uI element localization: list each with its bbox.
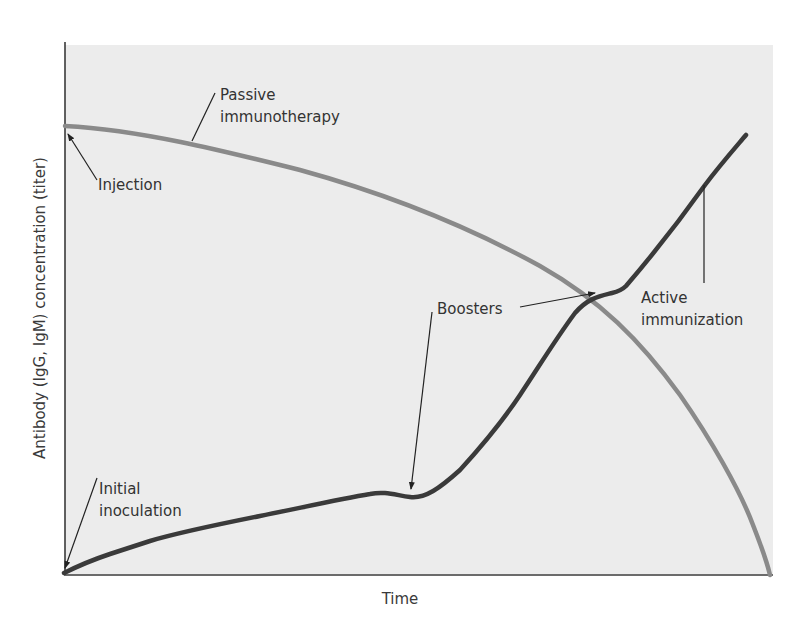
antibody-titer-chart: Injection Passive immunotherapy Initial … [0, 0, 798, 630]
passive-label-line2: immunotherapy [220, 108, 340, 126]
active-label-line1: Active [641, 289, 687, 307]
passive-label-line1: Passive [220, 86, 275, 104]
initial-label-line2: inoculation [99, 502, 182, 520]
x-axis-label: Time [381, 590, 419, 608]
active-label-line2: immunization [641, 311, 743, 329]
injection-label: Injection [98, 176, 162, 194]
initial-label-line1: Initial [99, 480, 141, 498]
boosters-label: Boosters [437, 300, 503, 318]
y-axis-label: Antibody (IgG, IgM) concentration (titer… [31, 157, 49, 459]
